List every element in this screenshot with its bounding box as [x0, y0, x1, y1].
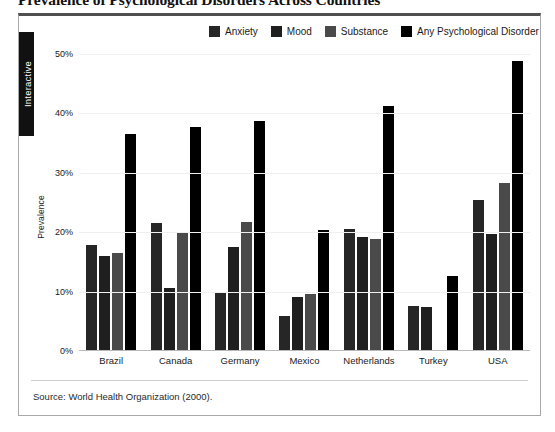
bar[interactable] [228, 247, 239, 350]
gridline [79, 173, 530, 174]
bar[interactable] [421, 307, 432, 350]
bar[interactable] [86, 245, 97, 350]
bar[interactable] [512, 61, 523, 350]
y-axis-ticks: 0%10%20%30%40%50% [45, 54, 77, 379]
legend-label: Anxiety [225, 26, 258, 37]
x-axis-label: Brazil [79, 355, 143, 366]
y-axis-tick-label: 40% [55, 108, 73, 118]
x-axis-label: Netherlands [337, 355, 401, 366]
bar[interactable] [125, 134, 136, 350]
legend-swatch-icon [209, 26, 220, 37]
bar[interactable] [383, 106, 394, 350]
bar[interactable] [344, 229, 355, 350]
y-axis-tick-label: 10% [55, 287, 73, 297]
y-axis-tick-label: 30% [55, 168, 73, 178]
bar[interactable] [241, 222, 252, 350]
plot-area [79, 54, 530, 351]
bar[interactable] [279, 316, 290, 350]
bar[interactable] [305, 294, 316, 350]
y-axis-tick-label: 20% [55, 227, 73, 237]
legend-swatch-icon [325, 26, 336, 37]
legend-item[interactable]: Anxiety [209, 26, 258, 37]
gridline [79, 292, 530, 293]
source-divider [31, 380, 528, 381]
plot-area-wrapper: Prevalence 0%10%20%30%40%50% BrazilCanad… [19, 54, 542, 379]
bar[interactable] [254, 121, 265, 350]
x-axis-labels: BrazilCanadaGermanyMexicoNetherlandsTurk… [79, 355, 530, 375]
legend-label: Substance [341, 26, 388, 37]
chart-legend: AnxietyMoodSubstanceAny Psychological Di… [209, 26, 539, 37]
page-title: Prevalence of Psychological Disorders Ac… [18, 0, 538, 9]
x-axis-label: Canada [143, 355, 207, 366]
legend-item[interactable]: Substance [325, 26, 388, 37]
figure-panel: Interactive AnxietyMoodSubstanceAny Psyc… [18, 13, 541, 416]
y-axis-tick-label: 50% [55, 49, 73, 59]
legend-swatch-icon [401, 26, 412, 37]
gridline [79, 232, 530, 233]
screenshot-root: Prevalence of Psychological Disorders Ac… [0, 0, 555, 432]
bar[interactable] [292, 297, 303, 350]
bar-group [337, 54, 401, 350]
legend-item[interactable]: Any Psychological Disorder [401, 26, 539, 37]
x-axis-label: Mexico [272, 355, 336, 366]
bar[interactable] [190, 127, 201, 350]
bar-group [272, 54, 336, 350]
y-axis-tick-label: 0% [60, 346, 73, 356]
x-axis-label: Turkey [401, 355, 465, 366]
bar[interactable] [357, 237, 368, 350]
x-axis-label: Germany [208, 355, 272, 366]
legend-item[interactable]: Mood [271, 26, 312, 37]
bar-group [466, 54, 530, 350]
legend-label: Any Psychological Disorder [417, 26, 539, 37]
legend-label: Mood [287, 26, 312, 37]
interactive-tab-label: Interactive [21, 61, 32, 107]
bar-group [208, 54, 272, 350]
bar[interactable] [164, 288, 175, 350]
bar[interactable] [318, 230, 329, 350]
legend-swatch-icon [271, 26, 282, 37]
bar[interactable] [473, 200, 484, 350]
bar-group [143, 54, 207, 350]
gridline [79, 54, 530, 55]
bar[interactable] [99, 256, 110, 350]
bar[interactable] [151, 223, 162, 350]
source-note: Source: World Health Organization (2000)… [33, 391, 212, 402]
bar[interactable] [408, 306, 419, 350]
bar[interactable] [447, 276, 458, 350]
bar-groups [79, 54, 530, 350]
interactive-tab[interactable]: Interactive [19, 32, 34, 136]
bar[interactable] [499, 183, 510, 351]
bar-group [79, 54, 143, 350]
x-axis-label: USA [466, 355, 530, 366]
gridline [79, 113, 530, 114]
bar[interactable] [370, 239, 381, 350]
bar-group [401, 54, 465, 350]
bar[interactable] [215, 292, 226, 350]
bar[interactable] [112, 253, 123, 350]
